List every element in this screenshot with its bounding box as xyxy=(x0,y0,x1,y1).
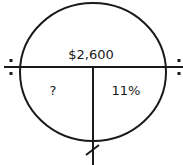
left-divide-icon xyxy=(7,59,15,75)
percent-circle-diagram xyxy=(0,0,183,165)
top-value-label: $2,600 xyxy=(68,48,114,61)
bottom-left-unknown-label: ? xyxy=(50,84,57,97)
bottom-right-percent-label: 11% xyxy=(112,84,141,97)
right-divide-icon xyxy=(175,59,183,75)
